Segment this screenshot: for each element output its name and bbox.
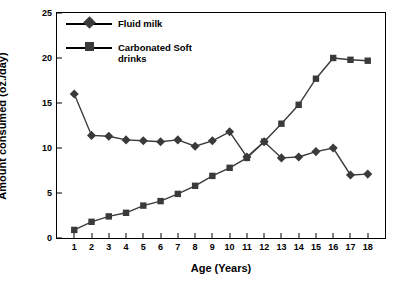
- data-point-marker: [346, 170, 355, 179]
- data-point-marker: [208, 136, 217, 145]
- y-tick-label: 10: [42, 143, 57, 153]
- legend-symbol-diamond: [66, 18, 112, 29]
- x-tick-label: 16: [328, 238, 338, 252]
- data-point-marker: [173, 135, 182, 144]
- data-point-marker: [329, 143, 338, 152]
- x-tick-label: 17: [345, 238, 355, 252]
- x-tick-label: 4: [124, 238, 129, 252]
- x-tick-label: 13: [276, 238, 286, 252]
- legend-label: Carbonated Soft drinks: [118, 42, 214, 64]
- x-tick-label: 10: [225, 238, 235, 252]
- data-point-marker: [363, 170, 372, 179]
- y-tick-label: 25: [42, 8, 57, 18]
- data-point-marker: [294, 152, 303, 161]
- data-point-marker: [88, 219, 94, 225]
- series-line: [74, 94, 367, 175]
- data-point-marker: [87, 131, 96, 140]
- y-tick-label: 5: [47, 188, 57, 198]
- y-tick-label: 0: [47, 233, 57, 243]
- data-point-marker: [209, 173, 215, 179]
- x-tick-label: 2: [89, 238, 94, 252]
- x-tick-label: 9: [210, 238, 215, 252]
- x-tick-label: 18: [363, 238, 373, 252]
- data-point-marker: [157, 198, 163, 204]
- data-point-marker: [278, 121, 284, 127]
- data-point-marker: [226, 165, 232, 171]
- y-tick-label: 15: [42, 98, 57, 108]
- x-tick-label: 11: [242, 238, 252, 252]
- data-point-marker: [71, 227, 77, 233]
- line-chart: Amount consumed (oz./day) 0510152025 123…: [0, 0, 417, 293]
- legend: Fluid milk Carbonated Soft drinks: [66, 18, 214, 77]
- data-point-marker: [295, 102, 301, 108]
- data-point-marker: [311, 147, 320, 156]
- data-point-marker: [225, 127, 234, 136]
- legend-label: Fluid milk: [118, 18, 162, 29]
- x-tick-label: 15: [311, 238, 321, 252]
- x-tick-label: 12: [259, 238, 269, 252]
- data-point-marker: [106, 213, 112, 219]
- data-point-marker: [330, 55, 336, 61]
- x-tick-label: 3: [106, 238, 111, 252]
- x-tick-label: 5: [141, 238, 146, 252]
- x-tick-label: 6: [158, 238, 163, 252]
- data-point-marker: [123, 210, 129, 216]
- y-tick-label: 20: [42, 53, 57, 63]
- data-point-marker: [156, 137, 165, 146]
- data-point-marker: [191, 142, 200, 151]
- x-tick-label: 7: [175, 238, 180, 252]
- data-point-marker: [313, 76, 319, 82]
- x-tick-label: 1: [72, 238, 77, 252]
- data-point-marker: [139, 136, 148, 145]
- data-point-marker: [244, 155, 250, 161]
- y-axis-label: Amount consumed (oz./day): [0, 16, 8, 236]
- y-axis-label-text: Amount consumed (oz./day): [0, 16, 8, 236]
- data-point-marker: [140, 202, 146, 208]
- data-point-marker: [365, 58, 371, 64]
- data-point-marker: [104, 132, 113, 141]
- legend-item-fluid-milk: Fluid milk: [66, 18, 214, 29]
- series-line: [74, 58, 367, 230]
- legend-item-carbonated-soft-drinks: Carbonated Soft drinks: [66, 42, 214, 64]
- legend-symbol-square: [66, 42, 112, 53]
- x-axis-label: Age (Years): [56, 262, 386, 274]
- data-point-marker: [347, 57, 353, 63]
- data-point-marker: [122, 135, 131, 144]
- data-point-marker: [192, 183, 198, 189]
- data-point-marker: [261, 139, 267, 145]
- data-point-marker: [70, 89, 79, 98]
- x-tick-label: 8: [193, 238, 198, 252]
- data-point-marker: [175, 191, 181, 197]
- x-tick-label: 14: [294, 238, 304, 252]
